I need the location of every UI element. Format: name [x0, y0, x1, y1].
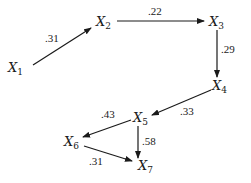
arrow-icon	[83, 120, 131, 137]
edge-x4-x5: .33	[152, 90, 211, 117]
edge-x5-x6: .43	[83, 108, 131, 137]
edge-x6-x7: .31	[84, 146, 132, 167]
edge-x2-x3: .22	[117, 5, 204, 21]
path-coefficient: .43	[101, 108, 115, 120]
node-x3: X3	[208, 14, 224, 31]
path-coefficient: .29	[221, 43, 235, 55]
node-x6: X6	[63, 134, 79, 151]
node-x7: X7	[137, 158, 153, 175]
node-x4: X4	[211, 78, 227, 95]
node-x5: X5	[132, 110, 148, 127]
arrow-icon	[33, 28, 91, 65]
path-coefficient: .33	[180, 105, 194, 117]
path-coefficient: .22	[148, 5, 162, 17]
path-coefficient: .58	[142, 135, 156, 147]
path-coefficient: .31	[89, 155, 103, 167]
path-diagram: .31.22.29.33.43.58.31 X1X2X3X4X5X6X7	[0, 0, 251, 183]
node-x1: X1	[7, 60, 23, 77]
nodes: X1X2X3X4X5X6X7	[7, 14, 227, 175]
node-x2: X2	[95, 14, 111, 31]
path-coefficient: .31	[45, 32, 59, 44]
edge-x5-x7: .58	[138, 126, 156, 158]
edge-x1-x2: .31	[33, 28, 91, 65]
edge-x3-x4: .29	[217, 30, 235, 77]
